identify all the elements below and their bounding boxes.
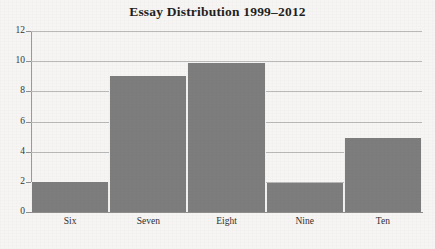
y-axis-tick-mark xyxy=(26,61,31,62)
bar-chart-figure: Essay Distribution 1999–2012 024681012 S… xyxy=(0,0,435,249)
x-axis-label-ten: Ten xyxy=(376,216,390,226)
chart-title: Essay Distribution 1999–2012 xyxy=(0,4,435,20)
bar-nine xyxy=(266,183,344,212)
bar-seven xyxy=(109,76,187,212)
x-axis-label-six: Six xyxy=(64,216,77,226)
y-axis-tick-mark xyxy=(26,152,31,153)
y-axis-tick-label: 6 xyxy=(3,117,25,127)
y-axis-tick-label: 2 xyxy=(3,177,25,187)
x-axis-label-nine: Nine xyxy=(295,216,313,226)
x-axis-label-eight: Eight xyxy=(216,216,237,226)
y-axis-tick-label: 8 xyxy=(3,87,25,97)
y-axis-tick-label: 12 xyxy=(3,26,25,36)
y-axis-tick-mark xyxy=(26,91,31,92)
gridline xyxy=(31,31,422,32)
y-axis-tick-mark xyxy=(26,122,31,123)
y-axis-tick-label: 10 xyxy=(3,56,25,66)
bar-six xyxy=(31,182,109,212)
x-axis-line xyxy=(31,212,423,213)
y-axis-tick-label: 0 xyxy=(3,207,25,217)
x-axis-label-seven: Seven xyxy=(137,216,160,226)
bar-ten xyxy=(344,138,422,212)
y-axis-tick-label: 4 xyxy=(3,147,25,157)
bar-eight xyxy=(187,63,265,212)
y-axis-tick-mark xyxy=(26,212,31,213)
plot-area: 024681012 xyxy=(31,31,422,212)
y-axis-tick-mark xyxy=(26,31,31,32)
